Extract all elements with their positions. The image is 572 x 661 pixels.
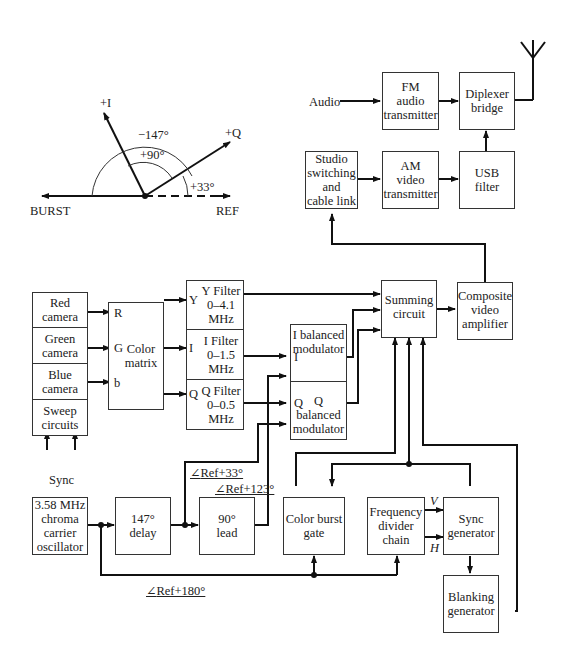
matrix-input-g: G [114,341,123,355]
frequency-divider-block: Frequency divider chain [367,497,425,555]
plus-i-label: +I [100,96,111,110]
h-sync-label: H [430,541,439,555]
sync-input-label: Sync [49,473,74,487]
modulator-stack: I balanced modulator Q balanced modulato… [290,324,347,440]
camera-stack: Red camera Green camera Blue camera Swee… [32,292,88,436]
chroma-oscillator-block: 3.58 MHz chroma carrier oscillator [32,497,88,555]
q-mod-input-label: Q [294,396,303,410]
am-video-transmitter-block: AM video transmitter [382,151,439,209]
fm-audio-transmitter-block: FM audio transmitter [382,72,439,130]
matrix-input-b: b [114,376,120,390]
i-filter-block: I Filter 0–1.5 MHz [186,330,244,380]
angle-33-label: +33° [190,180,215,194]
summing-circuit-block: Summing circuit [381,280,437,338]
q-balanced-modulator-block: Q balanced modulator [290,382,347,440]
blue-camera-block: Blue camera [32,364,88,400]
angle-90-label: +90° [140,148,165,162]
sync-generator-block: Sync generator [443,497,499,555]
color-burst-gate-block: Color burst gate [283,497,345,555]
sweep-circuits-block: Sweep circuits [32,400,88,436]
ref123-text: Ref+123° [225,482,274,496]
filter-input-y: Y [189,293,198,307]
filter-input-q: Q [189,387,198,401]
composite-video-amplifier-block: Composite video amplifier [457,282,513,340]
ref-label: REF [216,204,239,218]
angle-147-label: −147° [138,128,169,142]
diplexer-bridge-block: Diplexer bridge [459,72,515,130]
matrix-input-r: R [114,306,122,320]
ref123-label: ∠Ref+123° [215,482,274,496]
v-sync-label: V [430,494,438,508]
plus-q-label: +Q [225,126,241,140]
ref33-text: Ref+33° [200,466,243,480]
ref180-label: ∠Ref+180° [146,584,205,598]
blanking-generator-block: Blanking generator [443,575,499,633]
usb-filter-block: USB filter [459,151,515,209]
antenna-icon [520,38,546,60]
audio-input-label: Audio [309,95,340,109]
lead-90-block: 90° lead [199,497,255,555]
ref33-label: ∠Ref+33° [190,466,243,480]
red-camera-block: Red camera [32,292,88,328]
i-mod-input-label: I [294,350,298,364]
delay-147-block: 147° delay [115,497,171,555]
i-balanced-modulator-block: I balanced modulator [290,324,347,382]
ref180-text: Ref+180° [156,584,205,598]
burst-label: BURST [30,204,70,218]
studio-switching-block: Studio switching and cable link [305,151,358,209]
green-camera-block: Green camera [32,328,88,364]
filter-input-i: I [189,341,193,355]
